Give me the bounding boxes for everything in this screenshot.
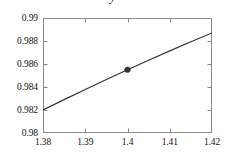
chart-figure: y 0.980.9820.9840.9860.9880.99 1.381.391…: [0, 0, 226, 156]
y-tick-label: 0.984: [0, 82, 38, 92]
x-tick-label: 1.41: [162, 137, 178, 147]
x-tick-label: 1.39: [77, 137, 93, 147]
x-tick-label: 1.4: [122, 137, 134, 147]
y-tick-label: 0.982: [0, 105, 38, 115]
plot-frame: [44, 19, 212, 133]
x-tick-label: 1.38: [35, 137, 51, 147]
data-point-marker[interactable]: [125, 67, 131, 73]
plot-area: [43, 18, 212, 133]
y-tick-label: 0.988: [0, 36, 38, 46]
y-tick-label: 0.98: [0, 128, 38, 138]
x-tick-label: 1.42: [204, 137, 220, 147]
chart-title: y: [0, 0, 226, 5]
plot-canvas: [43, 18, 212, 133]
y-tick-label: 0.99: [0, 13, 38, 23]
y-tick-label: 0.986: [0, 59, 38, 69]
